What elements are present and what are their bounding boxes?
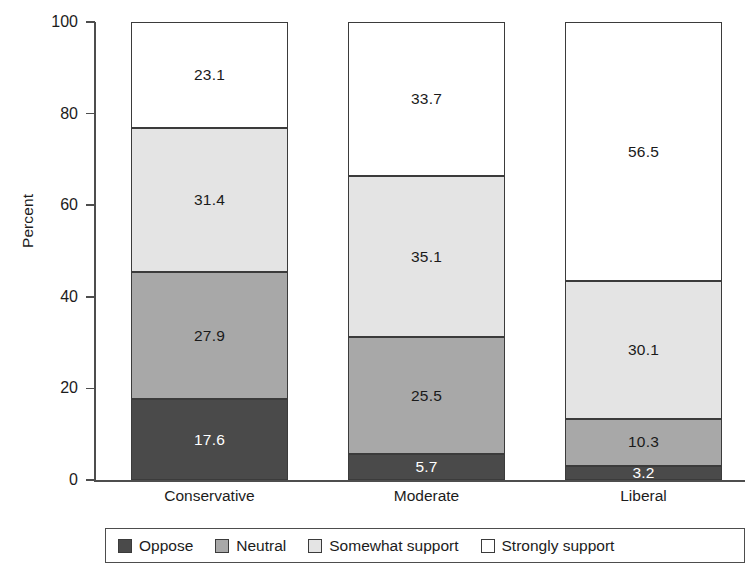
stacked-bar-chart: Percent 020406080100 23.131.427.917.633.… (0, 0, 751, 568)
bar-segment: 27.9 (131, 272, 288, 400)
legend-item-oppose[interactable]: Oppose (118, 538, 193, 554)
y-axis-tick-label: 100 (32, 14, 78, 30)
y-axis-tick-label: 40 (32, 289, 78, 305)
bar-segment: 35.1 (348, 176, 505, 337)
y-axis-tick-label: 80 (32, 106, 78, 122)
category-label-moderate: Moderate (348, 487, 505, 505)
bar-segment: 3.2 (565, 466, 722, 481)
legend-item-label: Neutral (236, 538, 286, 554)
bar-segment-value: 33.7 (411, 91, 442, 107)
bar-segment-value: 10.3 (628, 434, 659, 450)
y-axis-tick-label-text: 60 (32, 197, 78, 213)
bar-segment-value: 56.5 (628, 144, 659, 160)
bar-segment: 17.6 (131, 399, 288, 480)
y-axis-tick-label-text: 0 (32, 472, 78, 488)
y-axis-tick-label: 0 (32, 472, 78, 488)
category-label-liberal: Liberal (565, 487, 722, 505)
y-axis-tick-mark (86, 113, 95, 115)
bar-segment-value: 3.2 (632, 466, 654, 481)
bar-segment: 5.7 (348, 454, 505, 480)
bar-liberal: 56.530.110.33.2 (565, 22, 722, 480)
y-axis-tick-mark (86, 204, 95, 206)
bar-segment-value: 30.1 (628, 342, 659, 358)
bar-segment: 10.3 (565, 419, 722, 466)
legend-swatch-icon (118, 539, 132, 553)
legend-item-strongly-support[interactable]: Strongly support (481, 538, 615, 554)
legend-item-label: Strongly support (502, 538, 615, 554)
bar-segment-value: 23.1 (194, 67, 225, 83)
legend-swatch-icon (308, 539, 322, 553)
y-axis-tick-label-text: 100 (32, 14, 78, 30)
y-axis-tick-label-text: 80 (32, 106, 78, 122)
bar-segment: 56.5 (565, 22, 722, 281)
y-axis-tick-label: 20 (32, 380, 78, 396)
y-axis-tick-label-text: 20 (32, 380, 78, 396)
bar-segment: 31.4 (131, 128, 288, 272)
y-axis-tick-mark (86, 388, 95, 390)
legend-item-neutral[interactable]: Neutral (215, 538, 286, 554)
y-axis-tick-mark (86, 21, 95, 23)
legend-item-label: Oppose (139, 538, 193, 554)
legend-swatch-icon (481, 539, 495, 553)
bar-segment-value: 5.7 (415, 459, 437, 475)
y-axis-tick-mark (86, 479, 95, 481)
bar-segment-value: 25.5 (411, 388, 442, 404)
legend: OpposeNeutralSomewhat supportStrongly su… (105, 528, 745, 563)
bar-moderate: 33.735.125.55.7 (348, 22, 505, 480)
bar-segment: 30.1 (565, 281, 722, 419)
y-axis-tick-label-text: 40 (32, 289, 78, 305)
category-label-conservative: Conservative (131, 487, 288, 505)
y-axis-tick-label: 60 (32, 197, 78, 213)
bar-segment: 33.7 (348, 22, 505, 176)
y-axis-title: Percent (19, 171, 37, 271)
bar-segment: 25.5 (348, 337, 505, 454)
bar-segment-value: 35.1 (411, 249, 442, 265)
bar-segment-value: 17.6 (194, 432, 225, 448)
y-axis-line (94, 22, 96, 481)
legend-item-label: Somewhat support (329, 538, 458, 554)
bar-segment-value: 31.4 (194, 192, 225, 208)
bar-conservative: 23.131.427.917.6 (131, 22, 288, 480)
legend-item-somewhat-support[interactable]: Somewhat support (308, 538, 458, 554)
legend-swatch-icon (215, 539, 229, 553)
bar-segment-value: 27.9 (194, 328, 225, 344)
bar-segment: 23.1 (131, 22, 288, 128)
y-axis-tick-mark (86, 296, 95, 298)
